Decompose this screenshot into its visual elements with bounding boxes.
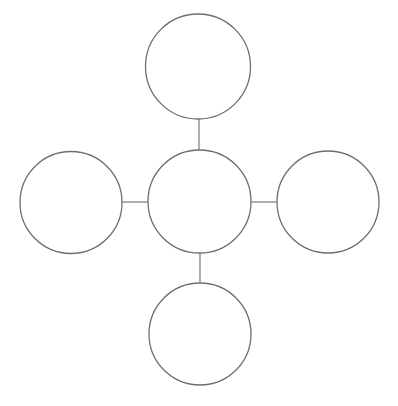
node-center[interactable]	[148, 150, 251, 253]
node-right[interactable]	[277, 151, 379, 253]
bottom-node-circle[interactable]	[149, 283, 251, 385]
bubble-map-svg	[0, 0, 398, 406]
right-node-circle[interactable]	[277, 151, 379, 253]
node-group	[20, 14, 379, 385]
top-node-circle[interactable]	[146, 14, 251, 119]
left-node-circle[interactable]	[20, 152, 122, 254]
node-bottom[interactable]	[149, 283, 251, 385]
diagram-canvas	[0, 0, 398, 406]
node-top[interactable]	[146, 14, 251, 119]
node-left[interactable]	[20, 152, 122, 254]
center-node-circle[interactable]	[148, 150, 251, 253]
